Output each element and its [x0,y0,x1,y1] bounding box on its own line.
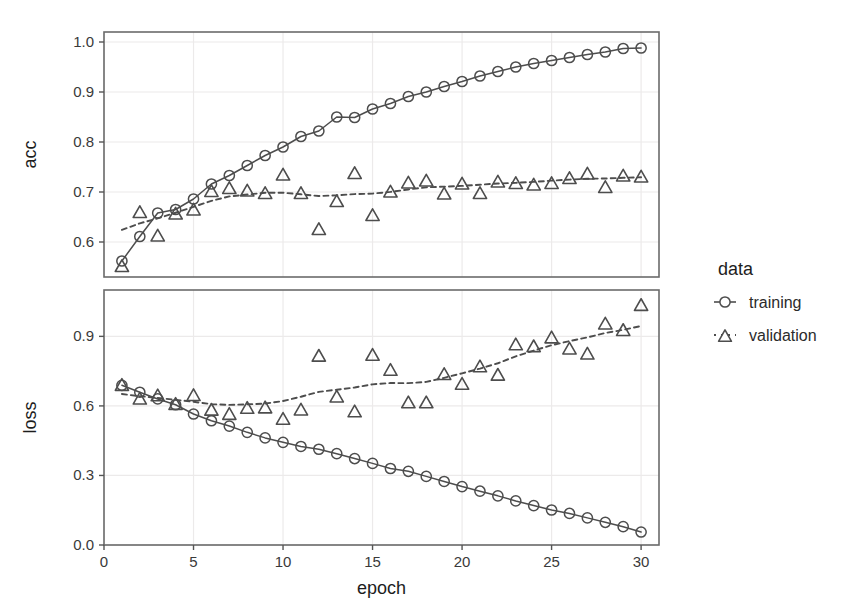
x-tick-label: 0 [100,553,108,570]
x-tick-label: 20 [454,553,471,570]
y-axis-title-acc: acc [20,140,40,168]
legend-item-label: validation [749,327,817,344]
y-tick-label: 0.6 [73,233,94,250]
panel-loss: 0.00.30.60.9loss [20,290,659,553]
y-tick-label: 0.7 [73,183,94,200]
y-axis-title-loss: loss [20,401,40,433]
x-tick-label: 10 [275,553,292,570]
legend-item-label: training [749,294,801,311]
y-tick-label: 0.3 [73,466,94,483]
panel-acc: 0.60.70.80.91.0acc [20,32,659,277]
x-tick-label: 5 [189,553,197,570]
x-axis-title: epoch [357,578,406,598]
panel-background [104,290,659,545]
panels-layer: 0.60.70.80.91.0acc0.00.30.60.9loss051015… [20,32,659,598]
chart-figure: 0.60.70.80.91.0acc0.00.30.60.9loss051015… [0,0,866,616]
x-tick-label: 30 [633,553,650,570]
panel-background [104,32,659,277]
y-tick-label: 0.9 [73,327,94,344]
y-tick-label: 1.0 [73,33,94,50]
x-tick-label: 25 [543,553,560,570]
y-tick-label: 0.0 [73,536,94,553]
y-tick-label: 0.8 [73,133,94,150]
legend-key-circle-icon [720,297,730,307]
y-tick-label: 0.9 [73,83,94,100]
x-tick-label: 15 [364,553,381,570]
legend-title: data [718,259,754,279]
y-tick-label: 0.6 [73,397,94,414]
training-metrics-chart: 0.60.70.80.91.0acc0.00.30.60.9loss051015… [0,0,866,616]
